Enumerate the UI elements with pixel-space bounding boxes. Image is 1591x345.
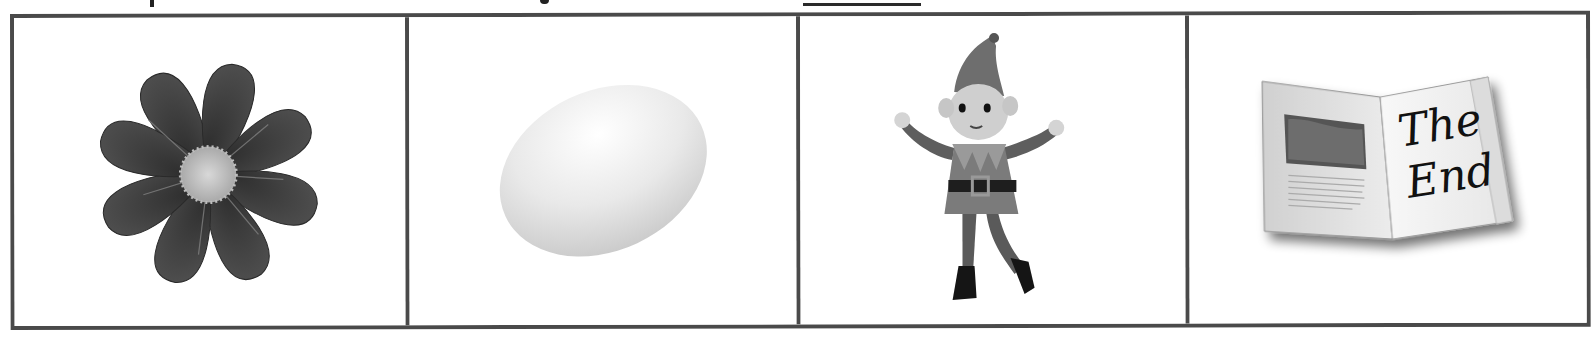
picture-cell-flower[interactable] — [14, 17, 410, 326]
descender-mark — [540, 0, 549, 4]
open-book-image: The End — [1252, 69, 1532, 270]
elf-image — [892, 30, 1073, 310]
descender-mark — [150, 0, 154, 7]
answer-blank[interactable] — [803, 3, 921, 6]
picture-cell-elf[interactable] — [800, 16, 1189, 325]
egg-image — [488, 71, 718, 271]
picture-cell-book[interactable]: The End — [1189, 15, 1587, 324]
picture-table: The End — [10, 11, 1591, 330]
picture-cell-egg[interactable] — [409, 16, 800, 325]
flower-image — [80, 46, 341, 297]
instruction-line — [0, 0, 1569, 12]
